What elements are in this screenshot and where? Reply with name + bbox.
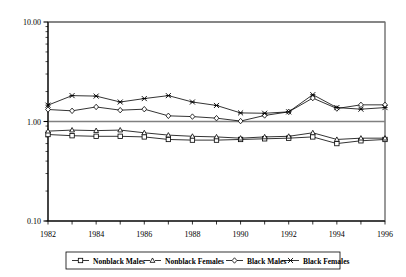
data-point-marker [70,108,75,114]
series-black-males [46,95,388,124]
data-point-marker [142,96,147,101]
data-point-marker [190,138,194,142]
data-point-marker [70,93,75,98]
data-point-marker [118,107,123,113]
data-point-marker [94,134,98,138]
data-point-marker [335,141,339,145]
data-point-marker [214,103,219,108]
x-tick-label: 1990 [233,230,249,239]
x-tick-label: 1982 [40,230,56,239]
y-tick-label: 0.10 [27,217,41,226]
data-point-marker [190,114,195,120]
legend-label: Black Males [247,257,286,266]
data-point-marker [46,107,51,113]
data-point-marker [118,99,123,104]
chart-container: 10.001.000.10198219841986198819901992199… [0,0,406,277]
data-point-marker [383,102,388,108]
data-point-marker [166,137,170,141]
series-black-females [45,92,387,116]
data-point-marker [78,258,82,262]
x-tick-label: 1994 [329,230,345,239]
data-point-marker [118,134,122,138]
data-point-marker [142,106,147,112]
data-point-marker [94,104,99,110]
data-point-marker [310,130,315,134]
data-point-marker [142,135,146,139]
x-tick-label: 1996 [377,230,393,239]
series-line [48,95,385,114]
data-point-marker [359,102,364,108]
x-tick-label: 1986 [136,230,152,239]
data-point-marker [94,94,99,99]
y-tick-label: 1.00 [27,118,41,127]
x-tick-label: 1988 [184,230,200,239]
data-point-marker [311,135,315,139]
legend-label: Nonblack Females [165,257,224,266]
data-point-marker [70,133,74,137]
legend-label: Black Females [303,257,350,266]
x-tick-label: 1984 [88,230,104,239]
chart-legend: Nonblack MalesNonblack FemalesBlack Male… [66,252,350,269]
data-point-marker [238,110,243,115]
line-chart: 10.001.000.10198219841986198819901992199… [0,0,406,277]
x-tick-label: 1992 [281,230,297,239]
data-point-marker [166,113,171,119]
data-point-marker [166,93,171,98]
y-tick-label: 10.00 [23,18,41,27]
data-point-marker [238,118,243,124]
data-point-marker [214,115,219,121]
legend-label: Nonblack Males [93,257,145,266]
data-point-marker [190,99,195,104]
